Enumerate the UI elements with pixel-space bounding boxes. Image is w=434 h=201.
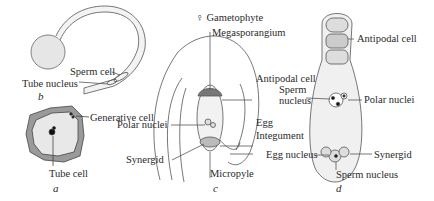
- label-polar-nuclei-d: Polar nuclei: [364, 94, 414, 105]
- label-antipodal-cell-c: Antipodal cell: [256, 73, 316, 84]
- label-synergid-d: Synergid: [374, 149, 412, 160]
- label-antipodal-cell-d: Antipodal cell: [357, 33, 417, 44]
- panel-letter-d: d: [336, 182, 342, 194]
- label-sperm-nucleus-bottom: Sperm nucleus: [336, 169, 398, 180]
- panel-letter-a: a: [53, 182, 59, 194]
- label-sperm-line1: Sperm: [279, 84, 306, 95]
- label-micropyle: Micropyle: [210, 168, 254, 179]
- label-megasporangium: Megasporangium: [212, 27, 286, 38]
- label-egg: Egg: [256, 117, 273, 128]
- label-gametophyte: ♀ Gametophyte: [196, 12, 263, 23]
- ovule-drawing: [154, 32, 259, 182]
- label-egg-nucleus: Egg nucleus: [266, 149, 318, 160]
- panel-letter-c: c: [213, 182, 218, 194]
- pollen-grain-drawing: [26, 106, 89, 166]
- label-integument: Integument: [256, 130, 304, 141]
- label-synergid-c: Synergid: [126, 154, 164, 165]
- panel-letter-b: b: [38, 90, 44, 102]
- label-sperm-line2: nucleus: [279, 95, 311, 106]
- label-tube-cell: Tube cell: [49, 168, 88, 179]
- label-tube-nucleus: Tube nucleus: [22, 78, 78, 89]
- label-polar-nuclei-c: Polar nuclei: [117, 119, 167, 130]
- label-sperm-cell: Sperm cell: [70, 66, 115, 77]
